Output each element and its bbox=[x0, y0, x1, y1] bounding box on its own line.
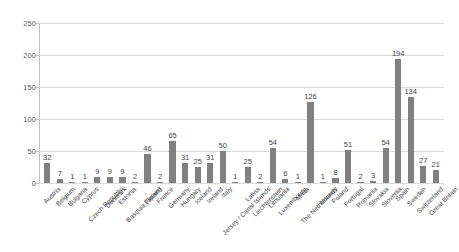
bar-slot[interactable]: 25 bbox=[242, 23, 255, 183]
bar-slot[interactable]: 31 bbox=[204, 23, 217, 183]
bar-slot[interactable]: 6 bbox=[279, 23, 292, 183]
category-slot: Great Britain bbox=[429, 185, 442, 252]
y-axis: 050100150200250 bbox=[0, 23, 36, 184]
bar[interactable]: 9 bbox=[107, 177, 113, 183]
bar-value-label: 31 bbox=[206, 154, 214, 162]
category-slot: Latvia bbox=[242, 185, 255, 252]
bar-slot[interactable]: 1 bbox=[292, 23, 305, 183]
bar[interactable]: 2 bbox=[132, 182, 138, 183]
bar-slot[interactable]: 7 bbox=[54, 23, 67, 183]
bar-slot[interactable]: 9 bbox=[104, 23, 117, 183]
bar-slot[interactable]: 9 bbox=[91, 23, 104, 183]
category-slot: Hungary bbox=[179, 185, 192, 252]
category-slot: Finland bbox=[141, 185, 154, 252]
bar[interactable]: 25 bbox=[195, 167, 201, 183]
bar[interactable]: 2 bbox=[157, 182, 163, 183]
bar-slot[interactable]: 27 bbox=[417, 23, 430, 183]
bar[interactable]: 9 bbox=[94, 177, 100, 183]
bar[interactable]: 50 bbox=[220, 151, 226, 183]
y-axis-tick-label: 250 bbox=[2, 19, 36, 28]
category-slot: Poland bbox=[329, 185, 342, 252]
bar-slot[interactable]: 126 bbox=[304, 23, 317, 183]
bar-slot[interactable]: 2 bbox=[129, 23, 142, 183]
bar[interactable]: 31 bbox=[207, 163, 213, 183]
category-slot: Italy bbox=[216, 185, 229, 252]
category-slot: Basquia (Spain) bbox=[129, 185, 142, 252]
bar-slot[interactable]: 1 bbox=[66, 23, 79, 183]
bar-slot[interactable]: 31 bbox=[179, 23, 192, 183]
category-slot: Bulgaria bbox=[66, 185, 79, 252]
category-slot: Liechtenstein bbox=[254, 185, 267, 252]
bar-slot[interactable]: 32 bbox=[41, 23, 54, 183]
bar[interactable]: 7 bbox=[57, 179, 63, 183]
category-slot: Romania bbox=[354, 185, 367, 252]
bar-slot[interactable]: 65 bbox=[166, 23, 179, 183]
y-axis-tick-label: 200 bbox=[2, 51, 36, 60]
bar[interactable]: 2 bbox=[257, 182, 263, 183]
category-slot: Switzerland bbox=[417, 185, 430, 252]
bar-value-label: 50 bbox=[219, 142, 227, 150]
bar[interactable]: 21 bbox=[433, 170, 439, 183]
bar-value-label: 32 bbox=[43, 154, 51, 162]
bar[interactable]: 3 bbox=[370, 181, 376, 183]
bar-slot[interactable]: 2 bbox=[154, 23, 167, 183]
bar[interactable]: 1 bbox=[69, 182, 75, 183]
bar[interactable]: 54 bbox=[383, 148, 389, 183]
category-slot: Sweden bbox=[404, 185, 417, 252]
bar[interactable]: 54 bbox=[270, 148, 276, 183]
bar[interactable]: 27 bbox=[420, 166, 426, 183]
bar-slot[interactable]: 2 bbox=[254, 23, 267, 183]
bar-value-label: 27 bbox=[419, 157, 427, 165]
bar[interactable]: 1 bbox=[232, 182, 238, 183]
bar-slot[interactable]: 1 bbox=[229, 23, 242, 183]
bar-slot[interactable]: 194 bbox=[392, 23, 405, 183]
bar-slot[interactable]: 25 bbox=[191, 23, 204, 183]
bar-value-label: 7 bbox=[58, 170, 62, 178]
category-slot: Austria bbox=[41, 185, 54, 252]
bar-slot[interactable]: 1 bbox=[317, 23, 330, 183]
bar-slot[interactable]: 2 bbox=[354, 23, 367, 183]
bar[interactable]: 51 bbox=[345, 150, 351, 183]
bar[interactable]: 46 bbox=[144, 154, 150, 183]
bar[interactable]: 8 bbox=[332, 178, 338, 183]
bar[interactable]: 194 bbox=[395, 59, 401, 183]
category-slot: Luxembourg bbox=[279, 185, 292, 252]
bar[interactable]: 31 bbox=[182, 163, 188, 183]
bar-slot[interactable]: 50 bbox=[216, 23, 229, 183]
bar[interactable]: 126 bbox=[307, 102, 313, 183]
bar[interactable]: 1 bbox=[82, 182, 88, 183]
bar[interactable]: 32 bbox=[44, 163, 50, 183]
bar[interactable]: 65 bbox=[169, 141, 175, 183]
bar-slot[interactable]: 1 bbox=[79, 23, 92, 183]
bar[interactable]: 134 bbox=[408, 97, 414, 183]
bar-slot[interactable]: 54 bbox=[267, 23, 280, 183]
category-slot: Slovakia bbox=[367, 185, 380, 252]
bar[interactable]: 9 bbox=[119, 177, 125, 183]
bar[interactable]: 25 bbox=[245, 167, 251, 183]
bar[interactable]: 6 bbox=[282, 179, 288, 183]
bar[interactable]: 1 bbox=[320, 182, 326, 183]
bar-value-label: 31 bbox=[181, 154, 189, 162]
category-slot: Slovenia bbox=[379, 185, 392, 252]
gridline bbox=[39, 183, 444, 184]
bar-slot[interactable]: 54 bbox=[379, 23, 392, 183]
bar-value-label: 9 bbox=[108, 168, 112, 176]
bar-value-label: 2 bbox=[258, 173, 262, 181]
bar-slot[interactable]: 21 bbox=[429, 23, 442, 183]
bar-value-label: 3 bbox=[371, 172, 375, 180]
bar-slot[interactable]: 8 bbox=[329, 23, 342, 183]
bar[interactable]: 2 bbox=[357, 182, 363, 183]
bar-slot[interactable]: 134 bbox=[404, 23, 417, 183]
bar-value-label: 51 bbox=[344, 141, 352, 149]
bar-value-label: 21 bbox=[432, 161, 440, 169]
category-slot: Norway bbox=[317, 185, 330, 252]
bar-slot[interactable]: 51 bbox=[342, 23, 355, 183]
bar-value-label: 9 bbox=[95, 168, 99, 176]
bar-value-label: 8 bbox=[333, 169, 337, 177]
bar-slot[interactable]: 9 bbox=[116, 23, 129, 183]
bar-slot[interactable]: 3 bbox=[367, 23, 380, 183]
bar[interactable]: 1 bbox=[295, 182, 301, 183]
bar-slot[interactable]: 46 bbox=[141, 23, 154, 183]
bar-value-label: 65 bbox=[168, 132, 176, 140]
